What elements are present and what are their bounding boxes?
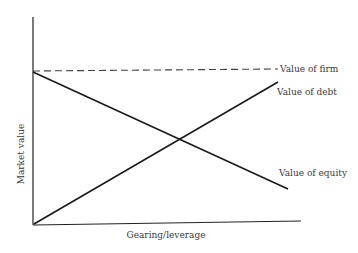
- y-axis-label: Market value: [16, 124, 26, 185]
- equity-value-label: Value of equity: [278, 168, 348, 178]
- firm-value-line: [33, 69, 278, 71]
- capital-structure-chart: Value of firm Value of debt Value of equ…: [0, 0, 358, 253]
- firm-value-label: Value of firm: [279, 64, 339, 74]
- debt-value-label: Value of debt: [276, 87, 337, 97]
- x-axis-label: Gearing/leverage: [126, 230, 205, 240]
- x-axis: [33, 221, 301, 225]
- equity-value-line: [33, 72, 288, 189]
- debt-value-line: [34, 82, 278, 224]
